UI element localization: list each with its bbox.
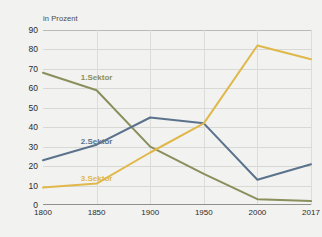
y-axis-tick-label: 10	[29, 181, 38, 191]
series-line	[43, 46, 311, 188]
x-axis-tick-label: 2000	[248, 208, 266, 217]
x-axis-tick-label: 1950	[195, 208, 213, 217]
y-axis-tick-label: 30	[29, 142, 38, 152]
plot-area: 0102030405060708090 18001850190019502000…	[43, 30, 311, 205]
y-axis-tick-label: 60	[29, 83, 38, 93]
series-label-1: 1.Sektor	[81, 72, 113, 81]
chart-container: in Prozent 0102030405060708090 180018501…	[0, 0, 322, 237]
y-axis-tick-label: 20	[29, 161, 38, 171]
x-axis-tick-label: 1900	[141, 208, 159, 217]
x-axis-tick-label: 1800	[34, 208, 52, 217]
y-axis-tick-label: 70	[29, 64, 38, 74]
y-axis-unit-label: in Prozent	[43, 14, 78, 23]
series-label-3: 3.Sektor	[81, 173, 113, 182]
y-axis-tick-label: 50	[29, 103, 38, 113]
x-axis-tick-label: 1850	[88, 208, 106, 217]
y-axis-tick-label: 40	[29, 122, 38, 132]
y-axis-tick-label: 80	[29, 44, 38, 54]
series-label-2: 2.Sektor	[81, 136, 113, 145]
series-line	[43, 118, 311, 180]
gridline-vertical	[311, 30, 312, 205]
x-axis-tick-label: 2017	[302, 208, 320, 217]
y-axis-tick-label: 90	[29, 25, 38, 35]
